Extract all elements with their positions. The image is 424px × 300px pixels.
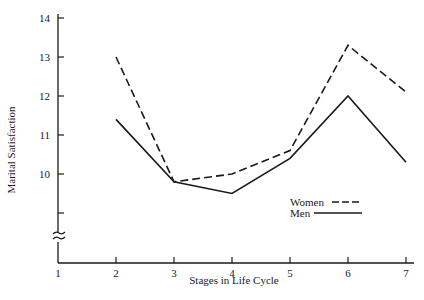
- x-axis-title: Stages in Life Cycle: [189, 274, 279, 286]
- y-axis-title: Marital Satisfaction: [5, 106, 17, 194]
- y-tick-label: 12: [39, 90, 50, 102]
- y-axis: 1011121314: [39, 12, 65, 263]
- x-tick-label: 3: [171, 267, 177, 279]
- x-tick-label: 1: [55, 267, 61, 279]
- axis-break-icon: [53, 232, 65, 239]
- x-tick-label: 5: [287, 267, 293, 279]
- legend: Women Men: [290, 196, 362, 219]
- x-tick-label: 2: [113, 267, 119, 279]
- x-tick-label: 7: [403, 267, 409, 279]
- y-tick-label: 10: [39, 168, 51, 180]
- y-tick-label: 13: [39, 51, 51, 63]
- legend-label-men: Men: [290, 207, 311, 219]
- y-tick-label: 14: [39, 12, 51, 24]
- y-tick-label: 11: [39, 129, 50, 141]
- line-chart: 1011121314 1234567 Stages in Life Cycle …: [0, 0, 424, 300]
- series-layer: [116, 45, 406, 193]
- series-line-men: [116, 96, 406, 194]
- x-tick-label: 6: [345, 267, 351, 279]
